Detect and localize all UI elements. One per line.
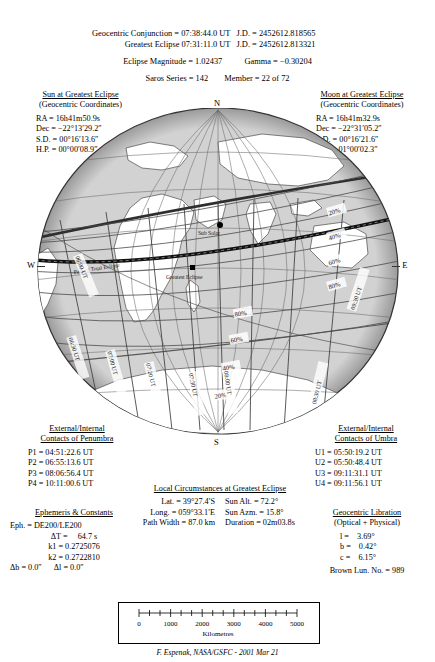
umbra-u3-row: U3 = 09:11:31.1 UT [315,469,425,479]
greatest-eclipse-point [190,265,195,270]
ephemeris-constants-block: Ephemeris & Constants Eph. = DE200/LE200… [10,508,138,573]
local-pathwidth-label: Path Width = [143,518,186,527]
brown-lunation-label: Brown Lun. No. = [330,566,390,575]
umbra-u2-value: 05:50:48.4 UT [334,458,382,467]
local-duration-label: Duration = [225,518,261,527]
libration-c-label: c = [340,553,350,562]
penumbra-p4-row: P4 = 10:11:00.6 UT [28,479,136,489]
local-lat-value: 39°27.4′S [183,497,215,506]
penumbra-p3-label: P3 = [28,469,43,478]
ephemeris-dt-label: ΔT = [51,532,68,541]
member-label: Member = [224,74,259,83]
ephemeris-eph-value: DE200/LE200 [34,521,82,530]
scale-bar-box: 0 1000 2000 3000 4000 5000 Kilometres [118,602,320,644]
sub-solar-point [217,222,223,228]
header-saros-row: Saros Series = 142 Member = 22 of 72 [0,73,435,84]
local-sunazm-value: 15.8° [266,508,284,517]
saros-label: Saros Series = [145,74,193,83]
libration-l-label: l = [340,532,349,541]
moon-block-title: Moon at Greatest Eclipse [296,90,428,100]
penumbra-p4-label: P4 = [28,479,43,488]
scale-tick-5000: 5000 [290,620,305,628]
ephemeris-k2-row: k2 = 0.2722810 [10,553,138,563]
umbra-u1-label: U1 = [315,448,332,457]
umbra-u4-value: 09:11:56.1 UT [334,479,382,488]
credit-line: F. Espenak, NASA/GSFC - 2001 Mar 21 [0,648,435,657]
header-block: Geocentric Conjunction = 07:38:44.0 UT J… [0,28,435,50]
libration-b-label: b = [340,542,351,551]
local-sunalt-row: Sun Alt. = 72.2° [225,497,318,507]
penumbra-p4-value: 10:11:00.6 UT [45,479,93,488]
gamma-label: Gamma = [244,57,277,66]
compass-south: S [214,437,219,447]
conjunction-label: Geocentric Conjunction = [92,29,179,38]
umbra-u1-row: U1 = 05:50:19.2 UT [315,448,425,458]
greatest-eclipse-label: Greatest Eclipse [166,274,203,280]
eclipse-map-page: Geocentric Conjunction = 07:38:44.0 UT J… [0,0,435,662]
libration-c-value: 6.15° [358,553,376,562]
compass-west-label: W [27,260,35,270]
ephemeris-dl-label: Δl = [54,563,68,572]
scale-tick-2000: 2000 [195,620,210,628]
scale-bar-tick-labels: 0 1000 2000 3000 4000 5000 [137,620,304,628]
umbra-u4-row: U4 = 09:11:56.1 UT [315,479,425,489]
penumbra-title-line1: External/Internal [18,424,136,434]
penumbra-p2-label: P2 = [28,458,43,467]
geocentric-libration-block: Geocentric Libration (Optical + Physical… [306,508,428,576]
umbra-u3-value: 09:11:31.1 UT [334,469,382,478]
sun-block-title: Sun at Greatest Eclipse [18,90,143,100]
umbra-title-line1: External/Internal [307,424,425,434]
ephemeris-k1-label: k1 = [48,542,63,551]
conjunction-jd-label: J.D. = [237,29,257,38]
local-long-value: 059°33.1′E [178,508,215,517]
compass-north: N [214,98,220,108]
gamma-value: −0.30204 [280,57,312,66]
header-row-conjunction: Geocentric Conjunction = 07:38:44.0 UT J… [0,28,435,39]
greatest-eclipse-value: 07:31:11.0 UT [181,40,230,49]
local-lat-row: Lat. = 39°27.4′S [122,497,215,507]
umbra-u1-value: 05:50:19.2 UT [334,448,382,457]
scale-tick-3000: 3000 [227,620,242,628]
brown-lunation-value: 989 [392,566,404,575]
compass-east: E [392,260,407,270]
ephemeris-db-value: 0.0″ [28,563,42,572]
libration-subtitle: (Optical + Physical) [306,518,428,528]
sub-solar-label: Sub Solar [198,230,220,236]
header-magnitude-row: Eclipse Magnitude = 1.02437 Gamma = −0.3… [0,56,435,67]
local-circumstances-title: Local Circumstances at Greatest Eclipse [122,484,318,494]
local-sunalt-label: Sun Alt. = [225,497,259,506]
penumbra-p3-value: 08:06:56.4 UT [45,469,93,478]
umbra-contacts-block: External/Internal Contacts of Umbra U1 =… [307,424,425,489]
scale-tick-4000: 4000 [258,620,273,628]
conjunction-jd-value: 2452612.818565 [259,29,316,38]
libration-c-row: c = 6.15° [340,553,428,563]
umbra-u2-label: U2 = [315,458,332,467]
penumbra-title-line2: Contacts of Penumbra [18,434,136,444]
penumbra-p1-label: P1 = [28,448,43,457]
penumbra-p1-value: 04:51:22.6 UT [45,448,93,457]
local-duration-row: Duration = 02m03.8s [225,518,318,528]
eclipse-globe-map: Sub Solar Greatest Eclipse Path of Total… [22,108,414,438]
ephemeris-k2-label: k2 = [48,553,63,562]
greatest-eclipse-label: Greatest Eclipse [125,40,180,49]
conjunction-value: 07:38:44.0 UT [181,29,230,38]
brown-lunation-row: Brown Lun. No. = 989 [306,566,428,576]
ephemeris-k1-value: 0.2725076 [65,542,100,551]
compass-west: W [27,260,45,270]
ephemeris-k1-row: k1 = 0.2725076 [10,542,138,552]
penumbra-p2-row: P2 = 06:55:13.6 UT [28,458,136,468]
local-duration-value: 02m03.8s [263,518,295,527]
greatest-jd-label: J.D. = [237,40,257,49]
local-long-label: Long. = [150,508,176,517]
compass-north-label: N [214,98,220,108]
ephemeris-db-label: Δb = [10,563,26,572]
compass-west-tick [37,266,45,267]
local-pathwidth-value: 87.0 km [188,518,215,527]
scale-tick-1000: 1000 [164,620,179,628]
local-circumstances-block: Local Circumstances at Greatest Eclipse … [122,484,318,529]
libration-title: Geocentric Libration [306,508,428,518]
libration-b-value: 0.42° [359,542,377,551]
scale-unit-label: Kilometres [202,630,233,638]
libration-l-row: l = 3.69° [340,532,428,542]
penumbra-p1-row: P1 = 04:51:22.6 UT [28,448,136,458]
